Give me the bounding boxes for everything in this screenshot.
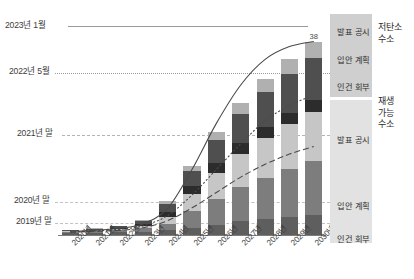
bar-segment (305, 112, 322, 161)
bar-segment (232, 114, 249, 144)
side-label-renewable-hydrogen: 재생 가능 수소 (378, 96, 394, 131)
y-label-2023-01: 2023년 1월 (5, 18, 46, 30)
bar-segment (208, 163, 225, 172)
y-label-2019-end: 2019년 말 (16, 214, 52, 226)
legend-label-renewable-announced: 발표 공시 (333, 133, 370, 145)
bar-segment (232, 103, 249, 114)
y-label-2022-05: 2022년 5월 (9, 64, 50, 76)
legend-item-renewable-announced[interactable]: 발표 공시 (333, 133, 370, 145)
bar-segment (257, 178, 274, 219)
legend-label-low-carbon-announced: 발표 공시 (333, 25, 370, 37)
bar-segment (232, 143, 249, 153)
bar-segment (183, 186, 200, 194)
bar-segment (281, 124, 298, 169)
bar-segment (281, 74, 298, 113)
legend-label-low-carbon-planning: 입안 계획 (333, 53, 370, 65)
legend-label-renewable-planning: 입안 계획 (333, 199, 370, 211)
bar-segment (257, 92, 274, 127)
bar-segment (183, 194, 200, 211)
side-label-low-carbon-hydrogen: 저탄소 수소 (378, 22, 402, 45)
bar-segment (257, 79, 274, 92)
bar-segment (305, 58, 322, 100)
side-label-renewable-line-2: 가능 (378, 108, 394, 120)
bar-segment (183, 171, 200, 186)
legend-item-renewable-planning[interactable]: 입안 계획 (333, 199, 370, 211)
bar-group[interactable]: 38 (305, 42, 322, 237)
bar-segment (305, 100, 322, 112)
legend-item-low-carbon-announced[interactable]: 발표 공시 (333, 25, 370, 37)
bar-segment (257, 127, 274, 138)
bar-segment (232, 154, 249, 188)
legend-label-renewable-referral: 인건 회부 (333, 232, 370, 244)
legend-item-renewable-referral[interactable]: 인건 회부 (333, 232, 370, 244)
bar-segment (232, 187, 249, 221)
legend-item-low-carbon-planning[interactable]: 입안 계획 (333, 53, 370, 65)
bar-segment (208, 199, 225, 225)
y-label-2020-end: 2020년 말 (14, 193, 50, 205)
bar-group[interactable] (281, 59, 298, 236)
bar-group[interactable] (232, 103, 249, 236)
bar-segment (257, 138, 274, 178)
bar-group[interactable] (208, 132, 225, 236)
bars-area: 38 (58, 21, 326, 236)
bar-segment (208, 132, 225, 140)
bar-segment (281, 59, 298, 74)
bar-segment (208, 140, 225, 164)
hydrogen-project-pipeline-chart: 2023년 1월 2022년 5월 2021년 말 2020년 말 2019년 … (0, 0, 414, 279)
legend-renewable (330, 100, 372, 243)
bar-segment (159, 217, 176, 224)
bar-segment (305, 161, 322, 214)
side-label-low-carbon-line-1: 저탄소 (378, 22, 402, 34)
bar-value-label: 38 (310, 32, 318, 41)
bar-group[interactable] (257, 79, 274, 236)
bar-segment (159, 204, 176, 212)
bar-segment (305, 42, 322, 58)
y-label-2021-end: 2021년 말 (17, 126, 53, 138)
bar-segment (208, 173, 225, 200)
side-label-renewable-line-1: 재생 (378, 96, 394, 108)
legend-item-low-carbon-referral[interactable]: 인건 회부 (333, 80, 370, 92)
side-label-renewable-line-3: 수소 (378, 119, 394, 131)
side-label-low-carbon-line-2: 수소 (378, 34, 402, 46)
legend-label-low-carbon-referral: 인건 회부 (333, 80, 370, 92)
bar-segment (281, 169, 298, 216)
bar-segment (281, 113, 298, 124)
